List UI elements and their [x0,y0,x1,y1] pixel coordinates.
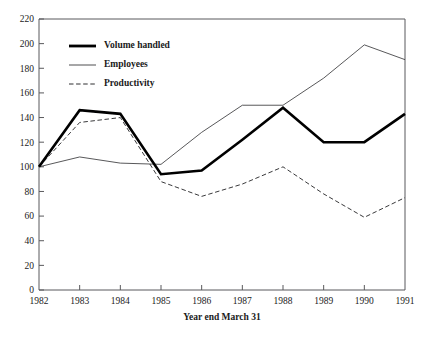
x-tick-label: 1990 [355,296,374,306]
chart-background [0,0,430,337]
legend-label: Productivity [104,78,155,88]
x-tick-label: 1988 [274,296,293,306]
y-tick-label: 80 [25,187,35,197]
y-tick-label: 180 [20,64,35,74]
y-tick-label: 0 [29,285,34,295]
x-tick-label: 1989 [314,296,333,306]
y-tick-label: 200 [20,39,35,49]
y-tick-label: 20 [25,261,35,271]
legend-label: Employees [104,59,148,69]
y-tick-label: 60 [25,211,35,221]
x-tick-label: 1982 [30,296,49,306]
y-tick-label: 160 [20,88,35,98]
legend-label: Volume handled [104,40,171,50]
x-tick-label: 1987 [233,296,252,306]
y-tick-label: 40 [25,236,35,246]
x-tick-label: 1986 [192,296,211,306]
x-tick-label: 1984 [111,296,130,306]
x-tick-label: 1985 [152,296,171,306]
chart-svg: 020406080100120140160180200220 198219831… [0,0,430,337]
line-chart: 020406080100120140160180200220 198219831… [0,0,430,337]
y-tick-label: 120 [20,138,35,148]
x-tick-label: 1983 [70,296,89,306]
y-tick-label: 140 [20,113,35,123]
y-tick-label: 100 [20,162,35,172]
x-axis-title: Year end March 31 [183,312,261,322]
x-tick-label: 1991 [396,296,415,306]
chart-page: 020406080100120140160180200220 198219831… [0,0,430,337]
y-tick-label: 220 [20,14,35,24]
